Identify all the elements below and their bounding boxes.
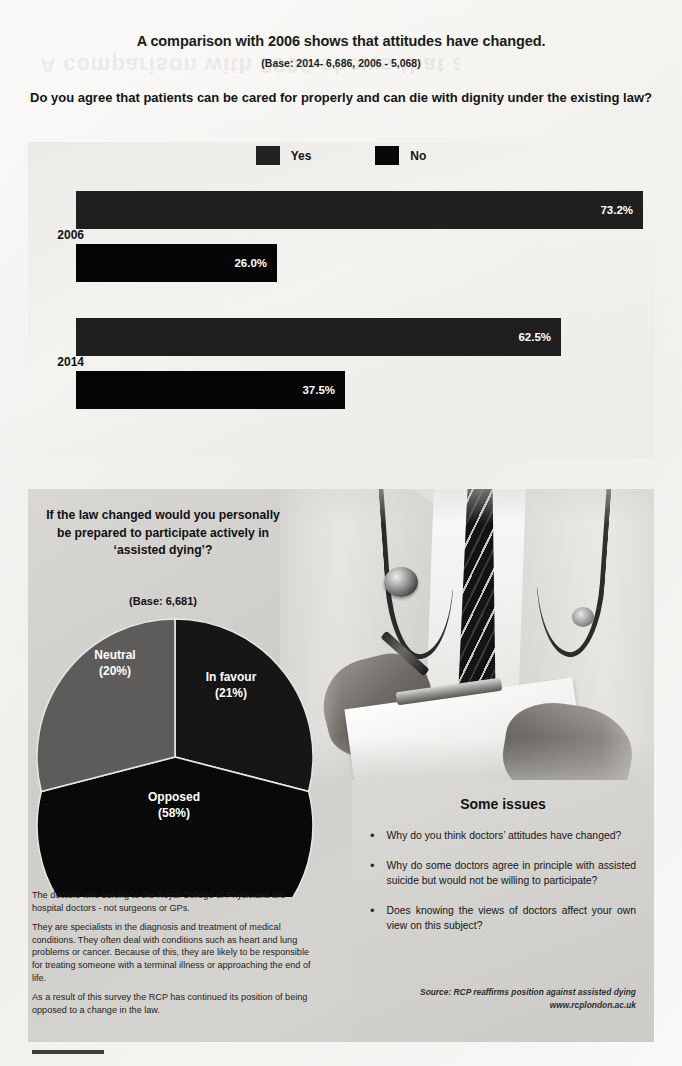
explanatory-text: The doctors who belong to the Royal Coll… [32, 889, 316, 1023]
source-attribution: Source: RCP reaffirms position against a… [366, 986, 636, 1012]
issue-text-2: Why do some doctors agree in principle w… [387, 858, 636, 888]
bar-2014-yes: 62.5% [76, 318, 561, 356]
bar-value-2006-yes: 73.2% [600, 204, 633, 216]
bullet-icon: • [370, 828, 375, 843]
some-issues-panel: Some issues • Why do you think doctors’ … [352, 780, 654, 1042]
bar-value-2006-no: 26.0% [234, 257, 267, 269]
pie-label-neutral: Neutral (20%) [65, 647, 165, 679]
bar-2006-yes: 73.2% [76, 191, 643, 229]
issue-text-3: Does knowing the views of doctors affect… [387, 903, 636, 933]
pie-chart: In favour (21%) Neutral (20%) Opposed (5… [35, 617, 315, 897]
infographic-page: A comparison with 2006 shows that attitu… [0, 0, 682, 1066]
base-note-top: (Base: 2014- 6,686, 2006 - 5,068) [0, 57, 682, 69]
body-paragraph-2: They are specialists in the diagnosis an… [32, 921, 316, 984]
issue-list-item: • Why do you think doctors’ attitudes ha… [370, 828, 636, 843]
source-line-2[interactable]: www.rcplondon.ac.uk [366, 999, 636, 1012]
bar-2014-no: 37.5% [76, 371, 345, 409]
some-issues-title: Some issues [370, 796, 636, 812]
body-paragraph-1: The doctors who belong to the Royal Coll… [32, 889, 316, 914]
source-line-1: Source: RCP reaffirms position against a… [366, 986, 636, 999]
photo-fade-overlay [280, 489, 654, 785]
pie-label-in-favour-name: In favour [181, 669, 281, 685]
doctor-photo [280, 489, 654, 785]
pie-label-neutral-name: Neutral [65, 647, 165, 663]
page-title: A comparison with 2006 shows that attitu… [0, 33, 682, 49]
bottom-rule [32, 1050, 104, 1054]
pie-label-opposed-value: (58%) [119, 805, 229, 821]
pie-label-in-favour: In favour (21%) [181, 669, 281, 701]
pie-chart-question: If the law changed would you personally … [38, 507, 288, 560]
bar-value-2014-no: 37.5% [302, 384, 335, 396]
issue-text-1: Why do you think doctors’ attitudes have… [387, 828, 636, 843]
issue-list-item: • Does knowing the views of doctors affe… [370, 903, 636, 933]
bar-value-2014-yes: 62.5% [518, 331, 551, 343]
bullet-icon: • [370, 858, 375, 888]
pie-label-opposed-name: Opposed [119, 789, 229, 805]
bar-chart-question: Do you agree that patients can be cared … [0, 88, 682, 107]
pie-label-neutral-value: (20%) [65, 663, 165, 679]
pie-label-opposed: Opposed (58%) [119, 789, 229, 821]
bar-2006-no: 26.0% [76, 244, 277, 282]
pie-base-note: (Base: 6,681) [38, 595, 288, 607]
lower-section: If the law changed would you personally … [28, 489, 654, 1042]
bullet-icon: • [370, 903, 375, 933]
pie-label-in-favour-value: (21%) [181, 685, 281, 701]
bar-chart-panel: Yes No 2006 73.2% 26.0% 2014 62.5% 37.5% [28, 142, 654, 458]
body-paragraph-3: As a result of this survey the RCP has c… [32, 991, 316, 1016]
issue-list-item: • Why do some doctors agree in principle… [370, 858, 636, 888]
bar-group-label-2014: 2014 [28, 355, 84, 369]
bar-group-label-2006: 2006 [28, 228, 84, 242]
bar-chart-plot: 2006 73.2% 26.0% 2014 62.5% 37.5% [28, 142, 654, 458]
